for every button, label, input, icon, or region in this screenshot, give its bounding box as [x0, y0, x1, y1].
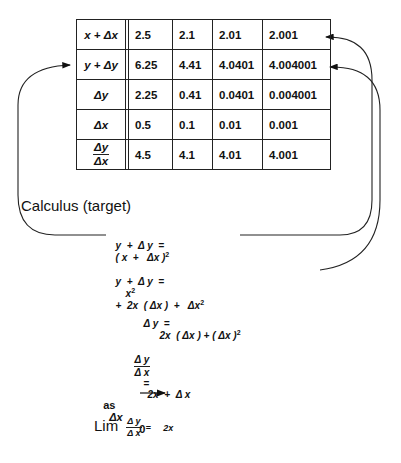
table-cell: 0.001: [263, 110, 331, 140]
diagram-title: Calculus (target): [21, 197, 131, 214]
table-row: x + Δx 2.5 2.1 2.01 2.001: [77, 20, 331, 50]
equation-2: y + Δ y = x2 + 2x ( Δx ) + Δx2: [110, 265, 204, 312]
table-cell: 0.01: [213, 110, 263, 140]
table-cell: 2.1: [173, 20, 213, 50]
row-header: x + Δx: [77, 20, 126, 50]
table-cell: 4.0401: [213, 50, 263, 80]
table-cell: 4.01: [213, 140, 263, 170]
table-cell: 0.0401: [213, 80, 263, 110]
row-header: y + Δy: [77, 50, 126, 80]
table-row: Δx 0.5 0.1 0.01 0.001: [77, 110, 331, 140]
table-row: y + Δy 6.25 4.41 4.0401 4.004001: [77, 50, 331, 80]
table-cell: 4.41: [173, 50, 213, 80]
table-cell: 0.5: [129, 110, 173, 140]
table-cell: 4.1: [173, 140, 213, 170]
row-header-fraction: ΔyΔx: [77, 140, 126, 170]
table-cell: 0.41: [173, 80, 213, 110]
equation-6: Lim Δ yΔ x = 2x: [94, 417, 173, 438]
table-cell: 4.004001: [263, 50, 331, 80]
equation-3: Δ y = 2x ( Δx ) + ( Δx )2: [138, 307, 241, 341]
table-cell: 2.001: [263, 20, 331, 50]
fraction: Δ yΔ x: [126, 417, 141, 438]
table-row: ΔyΔx 4.5 4.1 4.01 4.001: [77, 140, 331, 170]
values-table: x + Δx 2.5 2.1 2.01 2.001 y + Δy 6.25 4.…: [76, 19, 331, 170]
row-header: Δy: [77, 80, 126, 110]
table-row: Δy 2.25 0.41 0.0401 0.004001: [77, 80, 331, 110]
table-cell: 2.01: [213, 20, 263, 50]
equation-1: y + Δ y = ( x + Δx )2: [110, 229, 169, 263]
table-cell: 0.1: [173, 110, 213, 140]
table-cell: 4.001: [263, 140, 331, 170]
fraction: Δ yΔ x: [134, 355, 151, 378]
row-header: Δx: [77, 110, 126, 140]
table-cell: 4.5: [129, 140, 173, 170]
table-cell: 2.25: [129, 80, 173, 110]
table-cell: 6.25: [129, 50, 173, 80]
table-cell: 0.004001: [263, 80, 331, 110]
table-cell: 2.5: [129, 20, 173, 50]
